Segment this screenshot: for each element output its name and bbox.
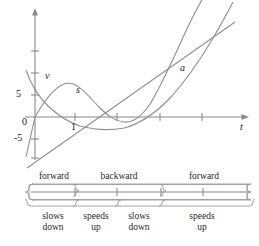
motion-graph-figure [0,0,259,246]
lower-divider-1 [73,200,79,206]
x-tick-label-1: 1 [71,122,76,132]
velocity-curve-v [26,2,233,130]
speed-band-label-2: speedsup [74,211,118,232]
speed-band-1-line2: down [32,222,74,233]
lower-divider-2 [115,200,121,206]
acceleration-line-a [27,22,235,168]
t-axis-arrowhead [242,114,250,120]
speed-band-4-line1: speeds [172,211,232,222]
direction-band-label-1: forward [32,172,76,182]
position-curve-label: s [76,85,80,95]
y-axis-arrowhead [32,8,38,16]
lower-bracket-left-end [25,199,31,206]
y-tick-label-5: 5 [16,89,21,99]
position-curve-s [26,0,202,157]
y-tick-label-neg5: -5 [14,133,22,143]
speed-band-2-line1: speeds [74,211,118,222]
upper-divider-1 [73,185,79,197]
speed-band-label-3: slowsdown [118,211,160,232]
axes-group [25,8,249,160]
direction-band-label-2: backward [92,172,146,182]
direction-band-label-3: forward [178,172,230,182]
speed-band-4-line2: up [172,222,232,233]
speed-band-2-line2: up [74,222,118,233]
lower-divider-3 [159,200,165,206]
band-diagram [25,183,255,206]
speed-band-3-line1: slows [118,211,160,222]
speed-band-label-1: slowsdown [32,211,74,232]
acceleration-curve-label: a [180,63,185,73]
speed-band-3-line2: down [118,222,160,233]
velocity-curve-label: v [45,71,49,81]
speed-band-1-line1: slows [32,211,74,222]
speed-band-label-4: speedsup [172,211,232,232]
t-axis-label: t [240,122,243,132]
y-tick-label-0: 0 [22,117,27,127]
